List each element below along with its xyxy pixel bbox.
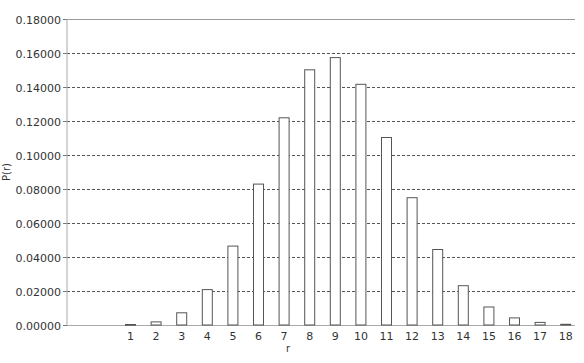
y-axis-label: P(r) [1, 163, 12, 181]
y-tick-label: 0.14000 [16, 82, 62, 95]
bar [151, 322, 161, 325]
bar [305, 70, 315, 325]
bar [433, 250, 443, 326]
bar [510, 318, 520, 325]
x-tick-label: 12 [405, 330, 419, 343]
bar [561, 324, 571, 325]
bar [535, 322, 545, 325]
x-tick-label: 18 [559, 330, 573, 343]
y-tick-label: 0.12000 [16, 116, 62, 129]
bar [407, 198, 417, 325]
y-axis-ticks: 0.000000.020000.040000.060000.080000.100… [16, 14, 68, 333]
x-tick-label: 2 [153, 330, 160, 343]
bar [279, 118, 289, 325]
x-tick-label: 9 [332, 330, 339, 343]
x-tick-label: 15 [482, 330, 496, 343]
y-tick-label: 0.00000 [16, 320, 62, 333]
x-tick-label: 6 [255, 330, 262, 343]
bar-chart: 0.000000.020000.040000.060000.080000.100… [0, 0, 584, 363]
y-tick-label: 0.02000 [16, 286, 62, 299]
x-tick-label: 1 [127, 330, 134, 343]
bars [126, 58, 571, 326]
y-tick-label: 0.08000 [16, 184, 62, 197]
y-tick-label: 0.16000 [16, 48, 62, 61]
x-tick-label: 5 [229, 330, 236, 343]
gridlines [67, 20, 575, 292]
bar [254, 184, 264, 325]
bar [356, 84, 366, 325]
bar [177, 313, 187, 325]
x-tick-label: 14 [456, 330, 470, 343]
x-tick-label: 16 [508, 330, 522, 343]
bar [458, 286, 468, 325]
x-tick-label: 10 [354, 330, 368, 343]
x-tick-label: 4 [204, 330, 211, 343]
y-tick-label: 0.10000 [16, 150, 62, 163]
bar [330, 58, 340, 325]
x-axis-ticks: 123456789101112131415161718 [127, 330, 573, 343]
x-tick-label: 3 [178, 330, 185, 343]
x-axis-label: r [286, 343, 291, 354]
bar [484, 307, 494, 325]
x-tick-label: 13 [431, 330, 445, 343]
bar [126, 325, 136, 326]
x-tick-label: 7 [281, 330, 288, 343]
bar [228, 246, 238, 325]
y-tick-label: 0.04000 [16, 252, 62, 265]
x-tick-label: 8 [306, 330, 313, 343]
x-tick-label: 17 [533, 330, 547, 343]
x-tick-label: 11 [380, 330, 394, 343]
y-tick-label: 0.18000 [16, 14, 62, 27]
bar [202, 290, 212, 325]
y-tick-label: 0.06000 [16, 218, 62, 231]
bar [382, 138, 392, 326]
